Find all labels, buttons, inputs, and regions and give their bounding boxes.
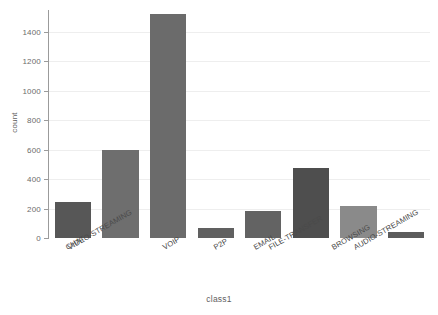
bar-chart: count 0200400600800100012001400 CHATVIDE… [0,0,438,315]
y-axis-tick-mark [44,32,48,33]
bar [150,14,186,238]
y-axis-tick-label: 800 [27,116,41,125]
plot-area: 0200400600800100012001400 [48,10,430,238]
y-axis-tick-mark [44,209,48,210]
y-axis-tick-label: 1000 [22,86,41,95]
x-axis-tick-label: P2P [212,237,229,252]
y-axis-title: count [10,93,19,153]
x-axis-tick-labels: CHATVIDEO-STREAMINGVOIPP2PEMAILFILE-TRAN… [48,238,430,294]
y-axis-tick-label: 200 [27,204,41,213]
y-axis-tick-label: 1200 [22,57,41,66]
y-axis-tick-label: 600 [27,145,41,154]
y-axis-tick-mark [44,179,48,180]
y-axis-tick-label: 0 [36,234,41,243]
bars-container [49,10,430,238]
y-axis-tick-mark [44,61,48,62]
y-axis-tick-label: 400 [27,175,41,184]
bar [245,211,281,238]
x-axis-title: class1 [0,294,438,304]
y-axis-tick-mark [44,91,48,92]
x-axis-tick-label: VOIP [161,235,182,252]
bar [198,228,234,238]
y-axis-tick-label: 1400 [22,28,41,37]
y-axis-tick-mark [44,150,48,151]
y-axis-tick-mark [44,120,48,121]
